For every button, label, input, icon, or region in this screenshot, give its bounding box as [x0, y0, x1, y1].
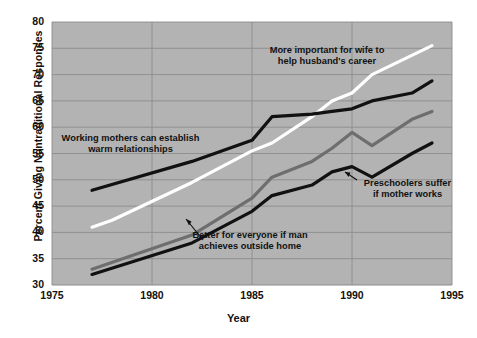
x-axis-tick-label: 1990	[322, 289, 382, 301]
annotation-wife-career: More important for wife to help husband'…	[247, 45, 407, 67]
annotation-better-for-everyone: Better for everyone if man achieves outs…	[175, 230, 325, 252]
x-axis-title: Year	[0, 312, 477, 324]
chart-figure: 3035404550556065707580 19751980198519901…	[0, 0, 477, 338]
y-axis-title: Percent Giving Nontraditional Responses	[32, 0, 44, 276]
x-axis-tick-label: 1980	[122, 289, 182, 301]
annotation-preschoolers-suffer: Preschoolers suffer if mother works	[355, 178, 460, 200]
annotation-working-mothers: Working mothers can establish warm relat…	[48, 133, 213, 155]
x-axis-tick-label: 1985	[222, 289, 282, 301]
x-axis-tick-label: 1975	[22, 289, 82, 301]
series-line-3	[92, 143, 432, 275]
x-axis-tick-label: 1995	[422, 289, 477, 301]
